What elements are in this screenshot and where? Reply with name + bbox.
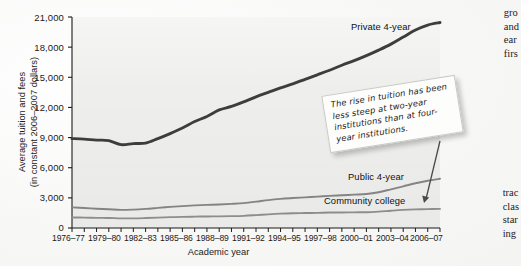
margin-fragment: ing	[503, 227, 519, 241]
margin-fragment: trac	[503, 186, 519, 200]
margin-text-bottom: trac clas star ing	[503, 186, 519, 240]
callout-note-text: The rise in tuition has been less steep …	[330, 81, 457, 146]
margin-fragment: gro	[504, 6, 519, 20]
margin-fragment: star	[503, 213, 519, 227]
series-line-public-4-year	[72, 179, 440, 210]
margin-fragment: ear	[504, 33, 519, 47]
margin-fragment: and	[504, 20, 519, 34]
margin-text-top: gro and ear firs	[504, 6, 519, 60]
margin-fragment: clas	[503, 200, 519, 214]
margin-fragment: firs	[504, 47, 519, 61]
tuition-chart-figure: 21,000 18,000 15,000 12,000 9,000 6,000 …	[0, 0, 437, 266]
